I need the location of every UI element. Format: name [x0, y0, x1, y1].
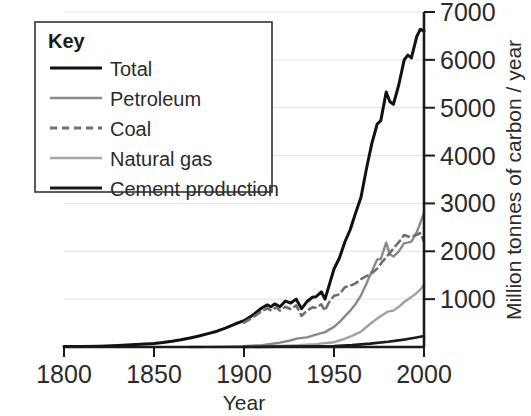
- legend-title: Key: [48, 30, 86, 52]
- y-tick-label: 3000: [440, 189, 496, 217]
- legend-label-coal: Coal: [110, 118, 151, 140]
- y-tick-label: 1000: [440, 285, 496, 313]
- x-axis-title: Year: [223, 391, 265, 414]
- y-tick-label: 7000: [440, 0, 496, 26]
- chart-page: 18001850190019502000 1000200030004000500…: [0, 0, 531, 416]
- legend-label-petroleum: Petroleum: [110, 88, 201, 110]
- y-axis-title: Million tonnes of carbon / year: [502, 40, 525, 320]
- x-tick-label: 1850: [126, 360, 182, 388]
- legend-label-natural-gas: Natural gas: [110, 148, 212, 170]
- y-tick-label: 4000: [440, 142, 496, 170]
- x-tick-label: 2000: [396, 360, 452, 388]
- y-tick-label: 6000: [440, 46, 496, 74]
- x-tick-label: 1800: [36, 360, 92, 388]
- legend-label-total: Total: [110, 58, 152, 80]
- chart-legend: Key TotalPetroleumCoalNatural gasCement …: [35, 22, 279, 200]
- legend-label-cement-production: Cement production: [110, 178, 279, 200]
- y-tick-label: 2000: [440, 237, 496, 265]
- x-tick-label: 1950: [306, 360, 362, 388]
- x-tick-label: 1900: [216, 360, 272, 388]
- carbon-emissions-line-chart: 18001850190019502000 1000200030004000500…: [0, 0, 531, 416]
- y-tick-label: 5000: [440, 94, 496, 122]
